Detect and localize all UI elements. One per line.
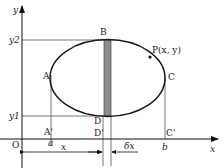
dx-label: δx bbox=[124, 141, 135, 151]
a-label: a bbox=[48, 138, 53, 148]
x-axis-label: x bbox=[210, 144, 215, 154]
point-c-label: C bbox=[168, 72, 175, 82]
y-axis-label: y bbox=[12, 5, 19, 15]
point-d-label: D bbox=[94, 116, 101, 126]
origin-label: O bbox=[12, 140, 19, 150]
point-d-prime-label: D' bbox=[94, 128, 104, 138]
point-c-prime-label: C' bbox=[166, 128, 175, 138]
y2-label: y2 bbox=[8, 35, 20, 45]
point-a-prime-label: A' bbox=[43, 127, 53, 137]
x-dimension-label: x bbox=[61, 142, 66, 152]
y1-label: y1 bbox=[8, 111, 20, 121]
point-a-label: A bbox=[42, 71, 50, 81]
point-p-marker bbox=[148, 55, 151, 58]
guide-lines bbox=[22, 40, 165, 166]
point-p-label: P(x, y) bbox=[152, 45, 181, 55]
shaded-strip bbox=[104, 40, 111, 116]
diagram-canvas: y x O y2 y1 a b B A C D P(x, y) A' D' C'… bbox=[0, 0, 224, 168]
b-label: b bbox=[162, 142, 168, 152]
point-b-label: B bbox=[100, 27, 107, 37]
